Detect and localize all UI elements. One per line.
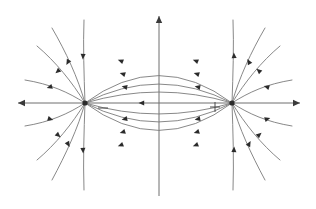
- dipole-field-diagram: [0, 0, 316, 209]
- positive-charge-node: [229, 100, 234, 105]
- dipole-field-svg: [0, 0, 316, 209]
- diagram-background: [0, 0, 316, 209]
- negative-charge-node: [82, 100, 87, 105]
